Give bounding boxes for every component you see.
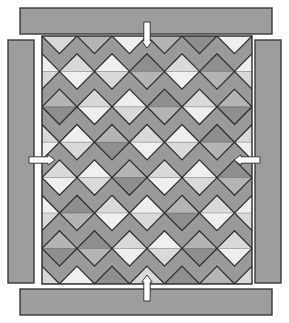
- lattice-triangle-upper: [287, 18, 289, 36]
- lattice-triangle-lower: [287, 248, 289, 266]
- lattice-diamond-outline: [287, 18, 289, 53]
- quilt-layout-svg: [0, 0, 289, 323]
- lattice-triangle-lower: [287, 178, 289, 196]
- lattice-diamond-outline: [287, 89, 289, 124]
- lattice-triangle-lower: [287, 36, 289, 54]
- lattice-diamond-outline: [287, 231, 289, 266]
- lattice-diamond-outline: [287, 160, 289, 195]
- lattice-triangle-lower: [287, 107, 289, 125]
- diagram-canvas: [0, 0, 289, 323]
- lattice-triangle-upper: [287, 89, 289, 107]
- lattice-triangle-upper: [287, 231, 289, 249]
- lattice-triangle-upper: [287, 160, 289, 178]
